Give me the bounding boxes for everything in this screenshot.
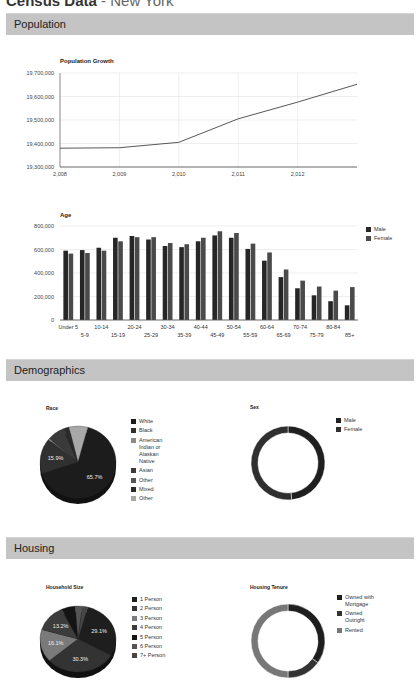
sex-donut-chart [250, 423, 330, 508]
legend-item: Other [131, 477, 169, 484]
bar-female [267, 252, 272, 320]
legend-swatch [132, 606, 137, 611]
x-tick-label: 55-59 [243, 332, 257, 338]
bar-male [229, 238, 234, 320]
y-tick-label: 19,600,000 [26, 94, 54, 100]
bar-male [163, 246, 168, 320]
bar-male [196, 241, 201, 320]
bar-female [151, 237, 156, 320]
x-tick-label: 65-69 [276, 332, 290, 338]
slice-label: 16.1% [48, 640, 64, 646]
legend-item: Asian [131, 467, 169, 474]
legend-label: 5 Person [140, 634, 170, 641]
donut-slice [288, 426, 325, 500]
bar-male [262, 261, 267, 320]
section-header-housing: Housing [6, 537, 414, 559]
legend-label: Other [139, 477, 169, 484]
x-tick-label: 2,008 [53, 171, 67, 177]
slice-label: 15.9% [48, 455, 64, 461]
bar-female [201, 238, 206, 320]
legend-item: Female [336, 426, 374, 433]
age-legend: MaleFemale [366, 226, 392, 245]
legend-label: American Indian or Alaskan Native [139, 437, 169, 465]
section-header-demographics: Demographics [6, 359, 414, 381]
chart-title-sex: Sex [250, 404, 259, 410]
y-tick-label: 19,300,000 [26, 164, 54, 170]
legend-label: White [139, 418, 169, 425]
household-size-legend: 1 Person2 Person3 Person4 Person5 Person… [132, 596, 170, 662]
legend-swatch [131, 478, 136, 483]
population-growth-chart: 19,700,00019,600,00019,500,00019,400,000… [0, 65, 417, 185]
bar-male [80, 250, 85, 320]
legend-label: Other [139, 495, 169, 502]
bar-male [130, 236, 135, 320]
chart-title-race: Race [46, 405, 58, 411]
legend-item: Black [131, 427, 169, 434]
chart-title-population-growth: Population Growth [60, 58, 114, 64]
page-title: Census Data - New York [6, 0, 174, 9]
legend-swatch [131, 487, 136, 492]
slice-label: 13.2% [53, 623, 69, 629]
section-title: Housing [14, 542, 54, 554]
bar-male [63, 251, 68, 320]
legend-swatch [366, 236, 371, 241]
page-title-text: Census Data [6, 0, 97, 9]
bar-female [251, 244, 256, 320]
legend-label: Female [344, 426, 374, 433]
legend-item: Other [131, 495, 169, 502]
legend-label: Black [139, 427, 169, 434]
legend-swatch [131, 468, 136, 473]
section-title: Population [14, 18, 66, 30]
legend-label: Owned with Mortgage [345, 594, 375, 608]
legend-swatch [131, 428, 136, 433]
sex-legend: MaleFemale [336, 417, 374, 436]
x-tick-label: 2,009 [113, 171, 127, 177]
bar-male [146, 240, 151, 320]
legend-label: Female [374, 235, 392, 242]
donut-slice [288, 659, 318, 678]
x-tick-label: 25-29 [144, 332, 158, 338]
x-tick-label: 50-54 [227, 324, 241, 330]
x-tick-label: 2,010 [172, 171, 186, 177]
legend-label: Mixed [139, 486, 169, 493]
bar-female [317, 287, 322, 320]
bar-male [212, 235, 217, 320]
x-tick-label: 5-9 [81, 332, 89, 338]
legend-swatch [132, 625, 137, 630]
bar-female [234, 233, 239, 320]
x-tick-label: 70-74 [293, 324, 307, 330]
donut-slice [251, 426, 292, 500]
age-bar-chart: 800,000600,000400,000200,0000Under 55-91… [0, 218, 417, 348]
y-tick-label: 19,500,000 [26, 117, 54, 123]
legend-item: Female [366, 235, 392, 242]
legend-label: Asian [139, 467, 169, 474]
x-tick-label: 85+ [345, 332, 354, 338]
legend-label: Male [374, 226, 386, 233]
y-tick-label: 400,000 [34, 270, 54, 276]
legend-item: 6 Person [132, 643, 170, 650]
legend-label: Male [344, 417, 374, 424]
donut-slice [288, 604, 325, 663]
legend-swatch [131, 419, 136, 424]
bar-male [328, 301, 333, 320]
legend-label: 7+ Person [140, 652, 170, 659]
legend-label: 3 Person [140, 615, 170, 622]
legend-item: Owned Outright [337, 610, 375, 624]
slice-label: 30.3% [72, 656, 88, 662]
legend-label: 4 Person [140, 624, 170, 631]
legend-swatch [132, 597, 137, 602]
chart-title-household-size: Household Size [46, 584, 83, 590]
legend-item: Owned with Mortgage [337, 594, 375, 608]
legend-swatch [337, 628, 342, 633]
bar-female [118, 241, 123, 320]
legend-swatch [337, 611, 342, 616]
bar-male [113, 238, 118, 320]
y-tick-label: 19,400,000 [26, 141, 54, 147]
bar-male [345, 305, 350, 320]
legend-label: Owned Outright [345, 610, 375, 624]
bar-female [333, 291, 338, 320]
housing-tenure-donut-chart [250, 601, 330, 681]
section-title: Demographics [14, 364, 85, 376]
slice-label: 65.7% [87, 474, 103, 480]
bar-female [102, 251, 107, 320]
